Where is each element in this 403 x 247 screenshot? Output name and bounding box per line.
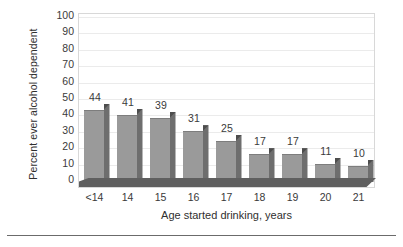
- y-tick-label: 40: [44, 107, 74, 119]
- bar-face: [183, 131, 203, 182]
- bar-value-label: 17: [287, 135, 299, 147]
- bar-face: [150, 118, 170, 182]
- bar-value-label: 31: [188, 112, 200, 124]
- bar-value-label: 10: [353, 147, 365, 159]
- bar-value-label: 11: [320, 145, 331, 157]
- bar-face: [249, 154, 269, 182]
- x-axis-title: Age started drinking, years: [78, 209, 375, 221]
- bar[interactable]: 11: [315, 150, 335, 182]
- bar-value-label: 39: [155, 99, 167, 111]
- plot-area: 444139312517171110: [78, 13, 375, 188]
- y-tick-label: 100: [44, 9, 74, 21]
- y-tick-label: 80: [44, 42, 74, 54]
- x-axis-tick-labels: <141415161718192021: [78, 191, 375, 207]
- bar-side-3d: [104, 104, 110, 182]
- bar-value-label: 44: [89, 91, 101, 103]
- bar[interactable]: 17: [282, 140, 302, 182]
- bar-face: [216, 141, 236, 182]
- y-tick-label: 50: [44, 91, 74, 103]
- bar-face: [117, 115, 137, 182]
- bar[interactable]: 10: [348, 152, 368, 182]
- bar-face: [282, 154, 302, 182]
- y-tick-label: 0: [44, 173, 74, 185]
- x-tick-label: 21: [339, 191, 379, 203]
- bar-value-label: 25: [221, 122, 233, 134]
- bar[interactable]: 17: [249, 140, 269, 182]
- bar[interactable]: 25: [216, 127, 236, 182]
- bar-value-label: 17: [254, 135, 266, 147]
- y-tick-label: 90: [44, 25, 74, 37]
- bottom-divider-rule: [7, 235, 396, 236]
- bars-container: 444139312517171110: [79, 14, 376, 189]
- bar-side-3d: [137, 109, 143, 182]
- bar[interactable]: 31: [183, 117, 203, 182]
- y-axis-tick-labels: 0102030405060708090100: [44, 12, 74, 188]
- y-axis-title: Percent ever alcohol dependent: [27, 14, 39, 194]
- bar[interactable]: 41: [117, 101, 137, 182]
- bar[interactable]: 44: [84, 96, 104, 182]
- y-tick-label: 20: [44, 140, 74, 152]
- bar-side-3d: [170, 112, 176, 182]
- y-tick-label: 30: [44, 124, 74, 136]
- y-tick-label: 10: [44, 157, 74, 169]
- bar-face: [84, 110, 104, 182]
- chart-floor-3d: [79, 178, 376, 187]
- y-tick-label: 60: [44, 75, 74, 87]
- bar-value-label: 41: [122, 96, 134, 108]
- y-tick-label: 70: [44, 58, 74, 70]
- bar-chart-figure: Percent ever alcohol dependent 010203040…: [0, 0, 403, 247]
- bar-side-3d: [236, 135, 242, 182]
- bar-side-3d: [203, 125, 209, 182]
- bar[interactable]: 39: [150, 104, 170, 182]
